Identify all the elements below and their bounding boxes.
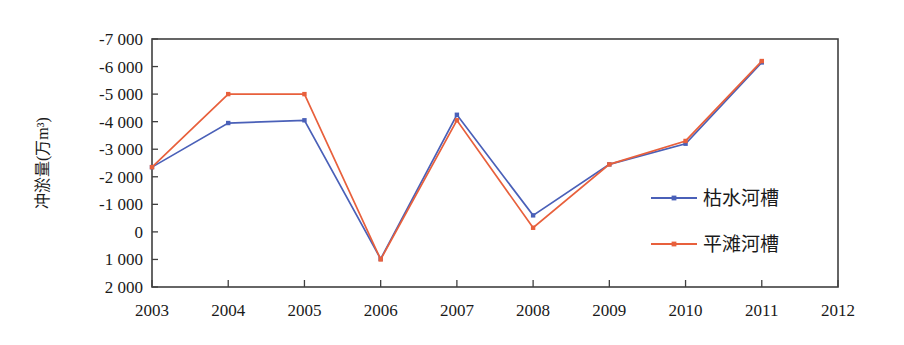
data-point-marker — [531, 226, 535, 230]
data-point-marker — [302, 118, 306, 122]
line-chart: -7 000-6 000-5 000-4 000-3 000-2 000-1 0… — [0, 0, 904, 345]
legend-label-2: 平滩河槽 — [703, 234, 779, 255]
x-tick-label: 2006 — [364, 301, 398, 320]
y-tick-label: -4 000 — [99, 113, 143, 132]
y-tick-label: -7 000 — [99, 30, 143, 49]
y-tick-label: 2 000 — [105, 278, 143, 297]
data-point-marker — [607, 162, 611, 166]
x-axis-tick-labels: 2003200420052006200720082009201020112012 — [135, 301, 855, 320]
y-tick-label: 1 000 — [105, 250, 143, 269]
y-tick-label: -3 000 — [99, 140, 143, 159]
y-axis-title-text: 冲淤量(万m³) — [34, 117, 52, 209]
x-axis-ticks — [152, 280, 838, 287]
y-axis-title: 冲淤量(万m³) — [34, 117, 52, 209]
data-point-marker — [683, 139, 687, 143]
y-tick-label: 0 — [135, 223, 144, 242]
x-tick-label: 2005 — [287, 301, 321, 320]
data-point-marker — [302, 92, 306, 96]
y-axis-tick-labels: -7 000-6 000-5 000-4 000-3 000-2 000-1 0… — [99, 30, 143, 297]
data-point-marker — [760, 59, 764, 63]
legend-marker-2 — [672, 242, 677, 247]
y-tick-label: -5 000 — [99, 85, 143, 104]
data-point-marker — [150, 165, 154, 169]
x-tick-label: 2008 — [516, 301, 550, 320]
series-line-2 — [152, 61, 762, 259]
x-tick-label: 2010 — [669, 301, 703, 320]
data-point-marker — [226, 121, 230, 125]
x-tick-label: 2007 — [440, 301, 475, 320]
x-tick-label: 2009 — [592, 301, 626, 320]
x-tick-label: 2011 — [745, 301, 778, 320]
x-tick-label: 2004 — [211, 301, 246, 320]
series-line-1 — [152, 62, 762, 258]
x-tick-label: 2012 — [821, 301, 855, 320]
y-tick-label: -2 000 — [99, 168, 143, 187]
data-point-marker — [378, 257, 382, 261]
data-point-marker — [455, 113, 459, 117]
data-point-marker — [531, 213, 535, 217]
series-layer — [150, 59, 764, 262]
chart-legend: 枯水河槽平滩河槽 — [651, 188, 779, 255]
x-tick-label: 2003 — [135, 301, 169, 320]
y-tick-label: -6 000 — [99, 58, 143, 77]
data-point-marker — [226, 92, 230, 96]
chart-figure: -7 000-6 000-5 000-4 000-3 000-2 000-1 0… — [0, 0, 904, 345]
legend-label-1: 枯水河槽 — [703, 188, 779, 209]
data-point-marker — [455, 118, 459, 122]
y-tick-label: -1 000 — [99, 195, 143, 214]
legend-marker-1 — [672, 196, 677, 201]
